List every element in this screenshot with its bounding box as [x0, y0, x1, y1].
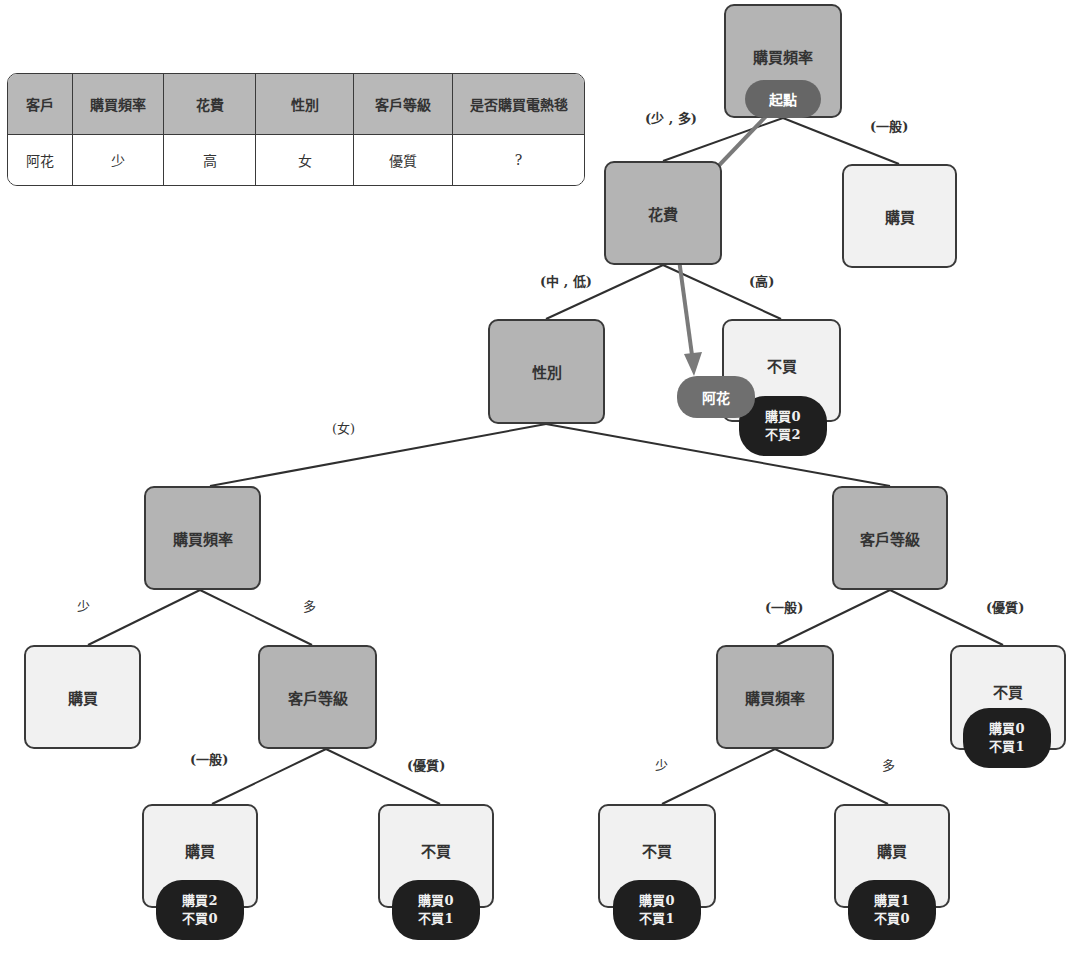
leaf-female-freq-low: 購買	[24, 645, 141, 749]
leaf-label: 購買	[68, 687, 98, 708]
edge-label: 多	[882, 755, 895, 774]
edge-label: 多	[303, 596, 316, 615]
edge-label: (優質)	[986, 597, 1024, 616]
right-level-node: 客戶等級	[832, 486, 948, 590]
female-level-node: 客戶等級	[258, 645, 377, 749]
leaf-label: 不買	[767, 355, 797, 376]
col-customer: 客戶	[8, 74, 73, 135]
node-label: 購買頻率	[173, 528, 233, 549]
edge-label: 少	[655, 755, 668, 774]
count-buy: 購買1	[874, 892, 909, 910]
leaf-label: 購買	[877, 840, 907, 861]
ahua-badge: 阿花	[677, 376, 755, 418]
count-badge: 購買2 不買0	[156, 880, 244, 940]
count-badge: 購買0 不買1	[963, 708, 1051, 768]
leaf-label: 購買	[885, 206, 915, 227]
count-nobuy: 不買1	[989, 738, 1024, 756]
leaf-label: 不買	[421, 840, 451, 861]
spend-node: 花費	[604, 161, 722, 265]
count-nobuy: 不買0	[874, 910, 909, 928]
col-frequency: 購買頻率	[73, 74, 164, 135]
root-node-label: 購買頻率	[753, 46, 813, 67]
start-badge: 起點	[745, 80, 821, 118]
col-gender: 性別	[256, 74, 354, 135]
count-buy: 購買0	[765, 408, 800, 426]
table-header-row: 客戶 購買頻率 花費 性別 客戶等級 是否購買電熱毯	[8, 74, 584, 135]
cell-spend: 高	[164, 135, 256, 186]
table-row: 阿花 少 高 女 優質 ?	[8, 135, 584, 186]
count-nobuy: 不買1	[418, 910, 453, 928]
cell-level: 優質	[354, 135, 453, 186]
cell-buy-blanket: ?	[453, 135, 585, 186]
spend-node-label: 花費	[648, 203, 678, 224]
cell-gender: 女	[256, 135, 354, 186]
count-buy: 購買0	[418, 892, 453, 910]
count-badge: 購買0 不買1	[392, 880, 480, 940]
gender-node: 性別	[488, 319, 605, 424]
col-spend: 花費	[164, 74, 256, 135]
count-nobuy: 不買2	[765, 426, 800, 444]
edge-label: (一般)	[765, 597, 803, 616]
start-badge-label: 起點	[769, 89, 797, 109]
leaf-label: 不買	[993, 681, 1023, 702]
count-buy: 購買0	[639, 892, 674, 910]
leaf-root-general: 購買	[842, 164, 957, 268]
right-frequency-node: 購買頻率	[716, 645, 834, 749]
leaf-label: 不買	[642, 840, 672, 861]
edge-label: (一般)	[870, 116, 908, 135]
edge-label: (中 , 低)	[540, 271, 592, 290]
cell-frequency: 少	[73, 135, 164, 186]
count-nobuy: 不買0	[182, 910, 217, 928]
cell-customer: 阿花	[8, 135, 73, 186]
node-label: 客戶等級	[288, 687, 348, 708]
edge-label: (優質)	[407, 755, 445, 774]
node-label: 客戶等級	[860, 528, 920, 549]
col-level: 客戶等級	[354, 74, 453, 135]
edge-label: (女)	[332, 418, 355, 437]
count-badge: 購買0 不買1	[613, 880, 701, 940]
node-label: 購買頻率	[745, 687, 805, 708]
gender-node-label: 性別	[532, 361, 562, 382]
edge-label: (一般)	[190, 749, 228, 768]
edge-label: 少	[77, 596, 90, 615]
count-nobuy: 不買1	[639, 910, 674, 928]
ahua-badge-label: 阿花	[702, 387, 730, 407]
female-frequency-node: 購買頻率	[144, 486, 261, 590]
leaf-label: 購買	[185, 840, 215, 861]
col-buy-blanket: 是否購買電熱毯	[453, 74, 585, 135]
count-buy: 購買0	[989, 720, 1024, 738]
edge-label: (少 , 多)	[645, 108, 697, 127]
count-buy: 購買2	[182, 892, 217, 910]
customer-table: 客戶 購買頻率 花費 性別 客戶等級 是否購買電熱毯 阿花 少 高 女 優質 ?	[7, 73, 585, 186]
edge-label: (高)	[749, 271, 774, 290]
count-badge: 購買1 不買0	[848, 880, 936, 940]
